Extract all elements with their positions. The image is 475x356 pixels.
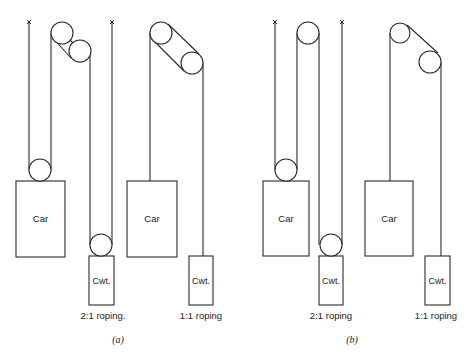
sheave-icon bbox=[297, 22, 319, 44]
counterweight-label: Cwt. bbox=[93, 276, 111, 286]
label-b-2to1-roping: 2:1 roping bbox=[310, 310, 352, 321]
sheave-icon bbox=[320, 234, 342, 256]
system-b-2to1: CarCwt. bbox=[263, 20, 343, 305]
counterweight-label: Cwt. bbox=[429, 276, 447, 286]
caption-a: (a) bbox=[112, 334, 124, 345]
sheave-icon bbox=[390, 23, 410, 43]
system-a-2to1: CarCwt. bbox=[16, 20, 114, 305]
rope-tangent bbox=[168, 24, 199, 54]
label-b-1to1-roping: 1:1 roping bbox=[415, 310, 457, 321]
system-a-1to1: CarCwt. bbox=[110, 20, 213, 305]
counterweight-label: Cwt. bbox=[322, 276, 340, 286]
car-label: Car bbox=[144, 213, 159, 224]
label-a-1to1-roping: 1:1 roping bbox=[180, 310, 222, 321]
caption-b: (b) bbox=[346, 334, 358, 345]
counterweight-label: Cwt. bbox=[192, 276, 210, 286]
sheave-icon bbox=[275, 159, 297, 181]
sheave-icon bbox=[69, 40, 91, 62]
sheave-icon bbox=[181, 52, 203, 74]
car-label: Car bbox=[381, 213, 396, 224]
sheave-icon bbox=[51, 22, 73, 44]
car-label: Car bbox=[33, 213, 48, 224]
system-b-1to1: CarCwt. bbox=[340, 20, 450, 305]
sheave-icon bbox=[29, 159, 51, 181]
sheave-icon bbox=[90, 234, 112, 256]
rope-tangent bbox=[407, 25, 438, 53]
roping-diagram: CarCwt.CarCwt.CarCwt.CarCwt. (a) (b) 2:1… bbox=[0, 0, 475, 356]
label-a-2to1-roping: 2:1 roping. bbox=[81, 310, 126, 321]
diagram-canvas: CarCwt.CarCwt.CarCwt.CarCwt. bbox=[0, 0, 475, 356]
sheave-icon bbox=[419, 51, 441, 73]
sheave-icon bbox=[150, 22, 172, 44]
car-label: Car bbox=[278, 213, 293, 224]
